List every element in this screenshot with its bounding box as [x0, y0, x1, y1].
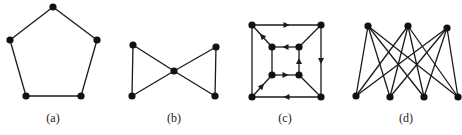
graph-vertex: [22, 92, 29, 99]
arrowhead-icon: [318, 58, 324, 64]
arrowhead-icon: [284, 22, 290, 28]
graph-vertex: [295, 71, 302, 78]
graph-edge: [299, 25, 321, 47]
graph-vertex: [211, 92, 218, 99]
graph-figure: (a) (b) (c) (d): [0, 0, 462, 135]
graph-edge: [424, 28, 447, 97]
graph-vertex: [386, 93, 393, 100]
graph-vertex: [404, 22, 411, 29]
graph-vertex: [364, 22, 371, 29]
graph-vertex: [170, 67, 177, 74]
graph-vertex: [443, 24, 450, 31]
graph-edge: [53, 7, 97, 40]
graph-edge: [132, 45, 133, 96]
graph-vertex: [352, 92, 359, 99]
panel-label: (d): [399, 111, 413, 125]
graph-vertex: [49, 3, 56, 10]
graph-edge: [81, 40, 97, 96]
graph-vertex: [248, 21, 255, 28]
panel-label: (c): [278, 111, 291, 125]
graph-vertex: [420, 93, 427, 100]
graph-vertex: [295, 43, 302, 50]
graph-vertex: [317, 93, 324, 100]
graph-vertex: [6, 36, 13, 43]
graph-edge: [133, 45, 174, 71]
graph-edge: [356, 26, 368, 96]
graph-vertex: [129, 41, 136, 48]
graph-vertex: [454, 93, 461, 100]
graph-edge: [174, 47, 216, 71]
panel-d-bipartite-graph: (d): [352, 22, 461, 125]
arrowhead-icon: [283, 44, 289, 50]
graph-edge: [10, 40, 26, 96]
panel-c-directed-cube-graph: (c): [248, 21, 324, 125]
graph-edge: [299, 75, 321, 97]
arrowhead-icon: [296, 58, 302, 64]
graph-vertex: [93, 36, 100, 43]
graph-vertex: [128, 92, 135, 99]
graph-edge: [368, 26, 390, 97]
graph-vertex: [268, 71, 275, 78]
panel-label: (b): [167, 111, 181, 125]
graph-vertex: [268, 43, 275, 50]
arrowhead-icon: [284, 94, 290, 100]
arrowhead-icon: [283, 72, 289, 78]
graph-edge: [132, 71, 174, 96]
graph-vertex: [248, 93, 255, 100]
panel-a-pentagon-graph: (a): [6, 3, 100, 125]
panel-label: (a): [46, 111, 59, 125]
graph-edge: [174, 71, 215, 96]
panel-b-bowtie-graph: (b): [128, 41, 219, 125]
graph-edge: [447, 28, 458, 97]
graph-vertex: [77, 92, 84, 99]
graph-edge: [10, 7, 53, 40]
graph-vertex: [212, 43, 219, 50]
graph-vertex: [317, 21, 324, 28]
graph-edge: [215, 47, 216, 96]
